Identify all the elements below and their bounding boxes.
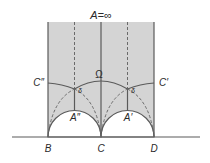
label-delta-right: δ (131, 87, 135, 94)
label-omega: Ω (95, 69, 103, 80)
label-c-prime: C′ (159, 77, 169, 88)
hyperbolic-fundamental-domain-diagram: A=∞ Ω C″ C′ δ δ A″ A′ B C D (0, 0, 210, 163)
label-a-double-prime: A″ (69, 112, 81, 123)
label-b: B (45, 143, 52, 154)
label-delta-left: δ (78, 87, 82, 94)
label-d: D (150, 143, 157, 154)
label-c-double-prime: C″ (33, 77, 44, 88)
label-a-infinity: A=∞ (89, 9, 112, 21)
label-a-prime: A′ (123, 112, 134, 123)
label-c: C (97, 143, 105, 154)
